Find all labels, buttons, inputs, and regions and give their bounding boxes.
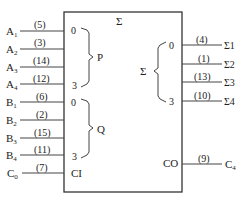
output-sum3-label: Σ3 bbox=[224, 77, 235, 88]
output-sum2-label: Σ2 bbox=[224, 59, 235, 70]
pin-b4: (11) bbox=[34, 144, 50, 155]
q-start-index: 0 bbox=[71, 97, 76, 108]
input-a4-label: A4 bbox=[6, 79, 17, 94]
output-sum4-label: Σ4 bbox=[224, 96, 235, 107]
pin-b3: (15) bbox=[34, 127, 51, 138]
sigma-group-label: Σ bbox=[140, 66, 146, 77]
q-group-brace bbox=[81, 99, 93, 158]
sigma-group-brace bbox=[154, 42, 166, 102]
q-group-label: Q bbox=[97, 124, 105, 135]
pin-b2: (2) bbox=[36, 109, 48, 120]
pin-a2: (3) bbox=[34, 37, 46, 48]
pin-sum4: (10) bbox=[194, 90, 211, 101]
p-end-index: 3 bbox=[72, 80, 77, 91]
pin-sum3: (13) bbox=[194, 71, 211, 82]
pin-sum1: (4) bbox=[196, 34, 208, 45]
input-b4-label: B4 bbox=[6, 150, 17, 165]
pin-a1: (5) bbox=[34, 19, 46, 30]
q-end-index: 3 bbox=[72, 151, 77, 162]
input-c0-label: C0 bbox=[7, 168, 18, 183]
output-sum1-label: Σ1 bbox=[224, 40, 235, 51]
sigma-end-index: 3 bbox=[169, 96, 174, 107]
input-a2-label: A2 bbox=[6, 44, 17, 59]
pin-b1: (6) bbox=[36, 91, 48, 102]
block-title: Σ bbox=[116, 16, 122, 27]
sigma-start-index: 0 bbox=[169, 40, 174, 51]
output-c4-label: C4 bbox=[225, 159, 236, 174]
input-a3-label: A3 bbox=[6, 62, 17, 77]
input-b2-label: B2 bbox=[6, 115, 17, 130]
carry-out-label: CO bbox=[163, 158, 178, 169]
p-group-brace bbox=[81, 28, 93, 87]
pin-a4: (12) bbox=[33, 73, 50, 84]
pin-sum2: (1) bbox=[198, 53, 210, 64]
input-a1-label: A1 bbox=[6, 26, 17, 41]
pin-c0: (7) bbox=[36, 162, 48, 173]
pin-c4: (9) bbox=[198, 153, 210, 164]
input-b1-label: B1 bbox=[6, 97, 17, 112]
input-b3-label: B3 bbox=[6, 133, 17, 148]
pin-a3: (14) bbox=[33, 55, 50, 66]
p-start-index: 0 bbox=[71, 25, 76, 36]
carry-in-label: CI bbox=[71, 168, 82, 179]
p-group-label: P bbox=[97, 52, 103, 63]
